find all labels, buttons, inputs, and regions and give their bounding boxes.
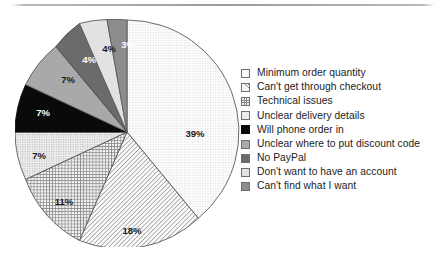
pie-label-3-find: 3% bbox=[121, 39, 135, 50]
legend-item-cant-get-through-checkout[interactable]: Can't get through checkout bbox=[241, 80, 437, 94]
pie-label-4-account: 4% bbox=[102, 43, 116, 54]
legend-item-label: Unclear where to put discount code bbox=[257, 139, 420, 149]
legend-swatch-icon bbox=[241, 168, 250, 177]
legend-item-dont-want-to-have-an-account[interactable]: Don't want to have an account bbox=[241, 165, 437, 179]
pie-label-7-phone: 7% bbox=[36, 107, 50, 118]
legend-item-label: Unclear delivery details bbox=[257, 111, 365, 121]
legend-item-label: No PayPal bbox=[257, 153, 306, 163]
pie-label-7-discount: 7% bbox=[61, 74, 75, 85]
pie-label-11: 11% bbox=[55, 196, 74, 207]
pie-label-18: 18% bbox=[122, 225, 142, 236]
pie-chart-svg: 39% 18% 11% 7% 7% 7% 4% 4% 3% bbox=[15, 19, 241, 247]
legend-item-label: Technical issues bbox=[257, 96, 333, 106]
chart-legend: Minimum order quantity Can't get through… bbox=[241, 66, 437, 194]
legend-item-label: Will phone order in bbox=[257, 125, 344, 135]
legend-swatch-icon bbox=[241, 125, 250, 134]
pie-chart: 39% 18% 11% 7% 7% 7% 4% 4% 3% bbox=[15, 19, 241, 247]
legend-swatch-icon bbox=[241, 140, 250, 149]
legend-item-label: Can't get through checkout bbox=[257, 82, 381, 92]
legend-swatch-icon bbox=[241, 69, 250, 78]
legend-item-will-phone-order-in[interactable]: Will phone order in bbox=[241, 123, 437, 137]
legend-item-label: Minimum order quantity bbox=[257, 68, 366, 78]
pie-label-7-delivery: 7% bbox=[32, 150, 46, 161]
legend-item-minimum-order-quantity[interactable]: Minimum order quantity bbox=[241, 66, 437, 80]
legend-item-label: Can't find what I want bbox=[257, 181, 356, 191]
legend-item-label: Don't want to have an account bbox=[257, 167, 397, 177]
legend-swatch-icon bbox=[241, 97, 250, 106]
pie-label-39: 39% bbox=[185, 128, 205, 139]
legend-swatch-icon bbox=[241, 83, 250, 92]
legend-item-no-paypal[interactable]: No PayPal bbox=[241, 151, 437, 165]
legend-swatch-icon bbox=[241, 182, 250, 191]
legend-swatch-icon bbox=[241, 111, 250, 120]
pie-label-4-paypal: 4% bbox=[82, 54, 96, 65]
chart-page: 39% 18% 11% 7% 7% 7% 4% 4% 3% Minimum or… bbox=[0, 0, 442, 262]
top-divider-rule bbox=[11, 4, 435, 6]
legend-item-unclear-where-to-put-discount-code[interactable]: Unclear where to put discount code bbox=[241, 137, 437, 151]
legend-swatch-icon bbox=[241, 154, 250, 163]
legend-item-cant-find-what-i-want[interactable]: Can't find what I want bbox=[241, 180, 437, 194]
pie-slices bbox=[15, 19, 239, 247]
legend-item-technical-issues[interactable]: Technical issues bbox=[241, 94, 437, 108]
legend-item-unclear-delivery-details[interactable]: Unclear delivery details bbox=[241, 109, 437, 123]
